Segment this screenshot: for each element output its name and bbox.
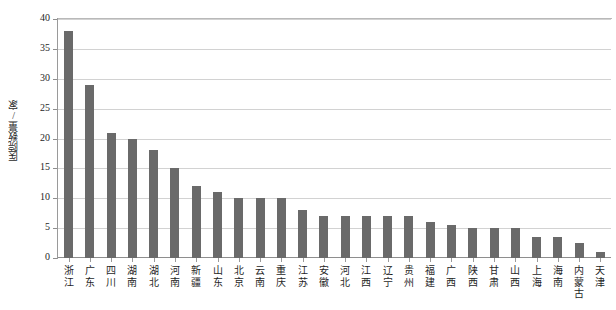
x-axis-label: 浙江 bbox=[60, 265, 78, 288]
x-label-char: 庆 bbox=[272, 277, 290, 289]
x-tick-mark bbox=[579, 258, 580, 262]
x-label-char: 江 bbox=[357, 265, 375, 277]
bar bbox=[85, 85, 94, 258]
x-tick-mark bbox=[239, 258, 240, 262]
y-axis-title-text: 医院数量/家 bbox=[8, 100, 20, 161]
x-tick-mark bbox=[196, 258, 197, 262]
x-tick-mark bbox=[537, 258, 538, 262]
gridline-25 bbox=[58, 109, 611, 110]
y-tick-label-5: 5 bbox=[28, 221, 50, 232]
bar bbox=[64, 31, 73, 258]
x-tick-mark bbox=[132, 258, 133, 262]
bar bbox=[149, 150, 158, 258]
x-label-char: 辽 bbox=[379, 265, 397, 277]
x-label-char: 云 bbox=[251, 265, 269, 277]
bar bbox=[107, 133, 116, 258]
x-label-char: 京 bbox=[230, 277, 248, 289]
x-label-char: 新 bbox=[187, 265, 205, 277]
x-label-char: 海 bbox=[528, 277, 546, 289]
y-tick-mark-15 bbox=[53, 168, 57, 169]
bar bbox=[447, 225, 456, 258]
y-tick-mark-20 bbox=[53, 139, 57, 140]
y-tick-label-0: 0 bbox=[28, 251, 50, 262]
x-tick-mark bbox=[451, 258, 452, 262]
x-label-char: 广 bbox=[442, 265, 460, 277]
x-axis-label: 山西 bbox=[506, 265, 524, 288]
x-label-char: 广 bbox=[81, 265, 99, 277]
x-tick-mark bbox=[515, 258, 516, 262]
y-tick-mark-25 bbox=[53, 109, 57, 110]
y-tick-label-15: 15 bbox=[28, 161, 50, 172]
x-label-char: 内 bbox=[570, 265, 588, 277]
x-label-char: 津 bbox=[591, 277, 609, 289]
x-label-char: 肃 bbox=[485, 277, 503, 289]
x-axis-label: 河南 bbox=[166, 265, 184, 288]
x-axis-label: 北京 bbox=[230, 265, 248, 288]
x-axis-label: 天津 bbox=[591, 265, 609, 288]
gridline-10 bbox=[58, 198, 611, 199]
x-tick-mark bbox=[388, 258, 389, 262]
x-axis-label: 贵州 bbox=[400, 265, 418, 288]
y-tick-label-35: 35 bbox=[28, 42, 50, 53]
x-axis-label: 海南 bbox=[549, 265, 567, 288]
x-axis-label: 湖南 bbox=[123, 265, 141, 288]
x-tick-mark bbox=[473, 258, 474, 262]
gridline-30 bbox=[58, 79, 611, 80]
x-axis-label: 云南 bbox=[251, 265, 269, 288]
bar bbox=[553, 237, 562, 258]
x-tick-mark bbox=[260, 258, 261, 262]
x-tick-mark bbox=[281, 258, 282, 262]
x-label-char: 北 bbox=[230, 265, 248, 277]
x-tick-mark bbox=[558, 258, 559, 262]
y-tick-label-25: 25 bbox=[28, 102, 50, 113]
x-tick-mark bbox=[345, 258, 346, 262]
bar bbox=[213, 192, 222, 258]
x-axis-label: 山东 bbox=[209, 265, 227, 288]
x-axis-label: 辽宁 bbox=[379, 265, 397, 288]
y-tick-mark-40 bbox=[53, 19, 57, 20]
bar bbox=[341, 216, 350, 258]
y-tick-mark-30 bbox=[53, 79, 57, 80]
x-label-char: 古 bbox=[570, 288, 588, 300]
bar bbox=[256, 198, 265, 258]
x-label-char: 东 bbox=[209, 277, 227, 289]
x-axis-label: 江西 bbox=[357, 265, 375, 288]
x-label-char: 江 bbox=[294, 265, 312, 277]
x-axis-label: 陕西 bbox=[464, 265, 482, 288]
bar bbox=[575, 243, 584, 258]
gridline-0 bbox=[58, 257, 611, 258]
x-tick-mark bbox=[175, 258, 176, 262]
x-axis-label: 河北 bbox=[336, 265, 354, 288]
x-label-char: 西 bbox=[357, 277, 375, 289]
x-axis-label: 江苏 bbox=[294, 265, 312, 288]
x-axis-label: 重庆 bbox=[272, 265, 290, 288]
y-tick-label-40: 40 bbox=[28, 12, 50, 23]
y-tick-label-20: 20 bbox=[28, 132, 50, 143]
x-tick-mark bbox=[494, 258, 495, 262]
bar bbox=[532, 237, 541, 258]
gridline-35 bbox=[58, 49, 611, 50]
x-label-char: 四 bbox=[102, 265, 120, 277]
x-label-char: 南 bbox=[166, 277, 184, 289]
x-tick-mark bbox=[303, 258, 304, 262]
bar bbox=[277, 198, 286, 258]
y-tick-label-10: 10 bbox=[28, 191, 50, 202]
x-tick-mark bbox=[111, 258, 112, 262]
x-label-char: 蒙 bbox=[570, 277, 588, 289]
y-tick-label-30: 30 bbox=[28, 72, 50, 83]
gridline-15 bbox=[58, 168, 611, 169]
y-axis-title: 医院数量/家 bbox=[8, 100, 24, 161]
x-label-char: 海 bbox=[549, 265, 567, 277]
bar bbox=[362, 216, 371, 258]
x-label-char: 川 bbox=[102, 277, 120, 289]
x-label-char: 徽 bbox=[315, 277, 333, 289]
x-label-char: 山 bbox=[506, 265, 524, 277]
bar bbox=[426, 222, 435, 258]
x-axis-label: 新疆 bbox=[187, 265, 205, 288]
x-axis-label: 甘肃 bbox=[485, 265, 503, 288]
x-label-char: 东 bbox=[81, 277, 99, 289]
bar bbox=[170, 168, 179, 258]
x-label-char: 上 bbox=[528, 265, 546, 277]
x-label-char: 浙 bbox=[60, 265, 78, 277]
x-label-char: 山 bbox=[209, 265, 227, 277]
